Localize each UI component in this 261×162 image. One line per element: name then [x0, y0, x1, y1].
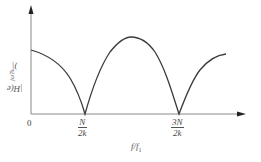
x-tick-2-denominator: 2k	[173, 128, 182, 138]
x-axis-label-main: f/f	[131, 141, 139, 151]
y-axis-label: |H(ejωTs)|	[2, 40, 26, 120]
chart-plot-area	[0, 0, 261, 162]
y-axis-label-main: |H(e	[7, 83, 23, 93]
x-axis-arrow-icon	[237, 112, 246, 117]
x-tick-1-numerator: N	[78, 117, 86, 127]
x-tick-n-over-2k: N 2k	[78, 117, 87, 138]
x-axis-label: f/f1	[131, 141, 142, 153]
x-tick-3n-over-2k: 3N 2k	[171, 117, 184, 138]
frequency-response-chart: |H(ejωTs)| 0 N 2k 3N 2k f/f1	[0, 0, 261, 162]
x-tick-1-denominator: 2k	[78, 128, 87, 138]
origin-label: 0	[27, 118, 32, 128]
magnitude-curve	[31, 37, 226, 114]
y-axis-label-close: )|	[12, 62, 17, 72]
y-axis-arrow-icon	[29, 5, 34, 14]
x-axis-label-subscript: 1	[139, 147, 142, 153]
x-tick-2-numerator: 3N	[171, 117, 184, 127]
